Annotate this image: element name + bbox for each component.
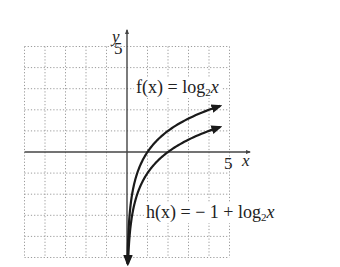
curve-h [128,127,220,264]
x-tick-5: 5 [224,155,233,172]
h-label-prefix: h(x) = − 1 + log [146,202,261,222]
curves [128,106,221,264]
h-label-var: x [266,202,274,222]
axes [25,30,251,264]
f-label: f(x) = log2x [134,78,221,98]
plot-area [0,0,340,267]
x-axis-label: x [242,152,250,169]
f-label-prefix: f(x) = log [136,77,205,97]
h-label: h(x) = − 1 + log2x [144,203,276,223]
f-label-var: x [211,77,219,97]
y-tick-5: 5 [114,40,123,57]
